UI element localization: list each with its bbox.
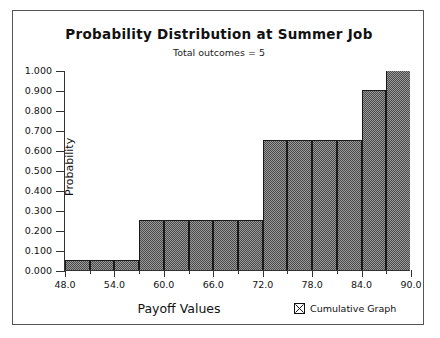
bar <box>114 260 139 270</box>
y-axis-tick-label: 0.900 <box>25 85 52 96</box>
x-axis-tick-label: 90.0 <box>400 279 421 290</box>
x-axis-minor-tick <box>287 270 288 274</box>
x-axis-major-tick <box>114 270 115 277</box>
x-axis-minor-tick <box>139 270 140 274</box>
y-axis-tick: 0.900 <box>56 91 65 92</box>
x-axis-tick-label: 48.0 <box>54 279 75 290</box>
legend-label-cumulative-graph: Cumulative Graph <box>310 303 396 314</box>
y-axis-tick-label: 0.800 <box>25 105 52 116</box>
y-axis-tick: 0.000 <box>56 271 65 272</box>
y-axis-tick-label: 0.200 <box>25 225 52 236</box>
x-axis-minor-tick <box>337 270 338 274</box>
bar <box>362 90 387 270</box>
y-axis-tick: 0.100 <box>56 251 65 252</box>
bar <box>386 71 410 270</box>
y-axis-tick-label: 0.500 <box>25 165 52 176</box>
legend[interactable]: Cumulative Graph <box>294 303 396 314</box>
y-axis-tick-label: 1.000 <box>25 65 52 76</box>
y-axis-tick: 0.300 <box>56 211 65 212</box>
y-axis-tick-label: 0.300 <box>25 205 52 216</box>
plot-area: Probability 0.0000.1000.2000.3000.4000.5… <box>64 71 410 271</box>
y-axis-tick: 1.000 <box>56 71 65 72</box>
x-axis-tick-label: 60.0 <box>153 279 174 290</box>
chart-title: Probability Distribution at Summer Job <box>13 26 425 42</box>
y-axis-tick-label: 0.100 <box>25 245 52 256</box>
bar <box>238 220 263 270</box>
bar <box>189 220 214 270</box>
bar <box>90 260 115 270</box>
x-axis-tick-label: 72.0 <box>252 279 273 290</box>
y-axis-tick: 0.800 <box>56 111 65 112</box>
x-axis-tick-label: 54.0 <box>104 279 125 290</box>
y-axis-tick: 0.500 <box>56 171 65 172</box>
x-axis-major-tick <box>362 270 363 277</box>
y-axis-tick-label: 0.700 <box>25 125 52 136</box>
bar <box>263 140 288 270</box>
x-axis-major-tick <box>411 270 412 277</box>
y-axis-tick-label: 0.000 <box>25 265 52 276</box>
bar <box>312 140 337 270</box>
y-axis-tick-label: 0.600 <box>25 145 52 156</box>
x-axis-minor-tick <box>386 270 387 274</box>
bar <box>213 220 238 270</box>
bars-layer <box>65 71 410 270</box>
bar <box>337 140 362 270</box>
cumulative-graph-checkbox[interactable] <box>294 303 305 314</box>
y-axis-tick: 0.600 <box>56 151 65 152</box>
chart-window-frame: Probability Distribution at Summer Job T… <box>12 10 424 325</box>
x-axis-major-tick <box>65 270 66 277</box>
x-axis-minor-tick <box>90 270 91 274</box>
x-axis-tick-label: 84.0 <box>351 279 372 290</box>
x-axis-tick-label: 78.0 <box>302 279 323 290</box>
bar <box>65 260 90 270</box>
y-axis-tick: 0.200 <box>56 231 65 232</box>
x-axis-major-tick <box>263 270 264 277</box>
y-axis-tick-label: 0.400 <box>25 185 52 196</box>
x-axis-minor-tick <box>189 270 190 274</box>
x-axis-minor-tick <box>238 270 239 274</box>
bar <box>287 140 312 270</box>
x-axis-tick-label: 66.0 <box>203 279 224 290</box>
y-axis-tick: 0.400 <box>56 191 65 192</box>
x-axis-major-tick <box>312 270 313 277</box>
x-axis-title: Payoff Values <box>64 301 294 316</box>
checkbox-x-icon <box>295 304 304 313</box>
bar <box>139 220 164 270</box>
chart-subtitle: Total outcomes = 5 <box>13 47 425 58</box>
chart-screenshot: Probability Distribution at Summer Job T… <box>0 0 440 338</box>
y-axis-tick: 0.700 <box>56 131 65 132</box>
x-axis-major-tick <box>164 270 165 277</box>
x-axis-major-tick <box>213 270 214 277</box>
bar <box>164 220 189 270</box>
